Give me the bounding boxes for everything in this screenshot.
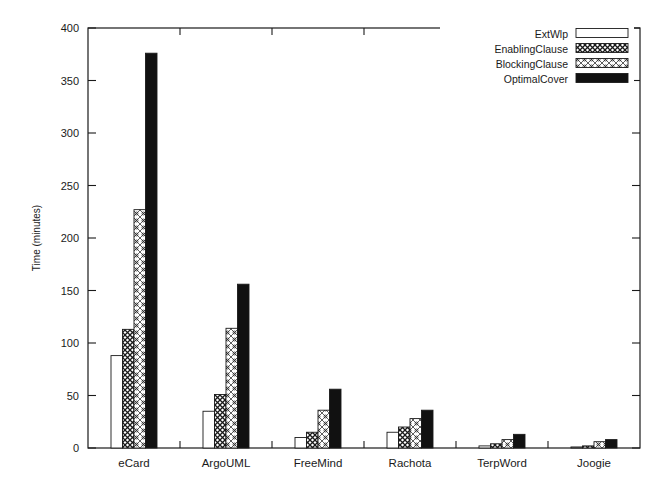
category-label: ArgoUML <box>202 457 251 469</box>
y-tick-label: 50 <box>67 390 79 402</box>
bar-joogie-blockingclause <box>594 442 606 448</box>
legend-label-enablingclause: EnablingClause <box>494 43 568 55</box>
chart-canvas: 050100150200250300350400 eCardArgoUMLFre… <box>0 0 670 485</box>
y-tick-label: 400 <box>61 22 79 34</box>
bar-joogie-extwlp <box>571 447 583 448</box>
chart-legend: ExtWlpEnablingClauseBlockingClauseOptima… <box>440 22 634 94</box>
legend-label-blockingclause: BlockingClause <box>496 58 569 70</box>
legend-label-optimalcover: OptimalCover <box>504 73 569 85</box>
y-tick-label: 100 <box>61 337 79 349</box>
bar-terpword-optimalcover <box>514 434 526 448</box>
bar-rachota-enablingclause <box>399 427 411 448</box>
bar-ecard-enablingclause <box>123 329 135 448</box>
y-tick-label: 0 <box>73 442 79 454</box>
bar-rachota-optimalcover <box>422 410 434 448</box>
category-label: Rachota <box>389 457 432 469</box>
bar-freemind-optimalcover <box>330 389 342 448</box>
bar-rachota-extwlp <box>387 432 399 448</box>
y-axis-label: Time (minutes) <box>31 205 42 271</box>
y-tick-label: 300 <box>61 127 79 139</box>
legend-swatch-optimalcover <box>576 74 628 83</box>
y-tick-label: 150 <box>61 285 79 297</box>
bar-terpword-enablingclause <box>491 444 503 448</box>
bar-ecard-optimalcover <box>146 53 158 448</box>
category-label: eCard <box>118 457 149 469</box>
y-axis-title: Time (minutes) <box>31 205 42 271</box>
bar-ecard-blockingclause <box>134 210 146 448</box>
bar-argouml-blockingclause <box>226 328 238 448</box>
bar-joogie-enablingclause <box>583 446 595 448</box>
legend-swatch-extwlp <box>576 29 628 38</box>
category-label: Joogie <box>577 457 611 469</box>
y-tick-label: 350 <box>61 75 79 87</box>
y-tick-label: 250 <box>61 180 79 192</box>
legend-label-extwlp: ExtWlp <box>535 28 568 40</box>
legend-swatch-blockingclause <box>576 59 628 68</box>
bar-chart: 050100150200250300350400 eCardArgoUMLFre… <box>0 0 670 485</box>
bar-terpword-blockingclause <box>502 440 514 448</box>
bar-ecard-extwlp <box>111 356 123 448</box>
bar-freemind-extwlp <box>295 438 307 449</box>
bar-freemind-enablingclause <box>307 432 319 448</box>
legend-swatch-enablingclause <box>576 44 628 53</box>
bar-joogie-optimalcover <box>606 440 618 448</box>
bar-terpword-extwlp <box>479 446 491 448</box>
category-label: FreeMind <box>294 457 343 469</box>
bar-argouml-enablingclause <box>215 394 227 448</box>
y-tick-label: 200 <box>61 232 79 244</box>
category-label: TerpWord <box>477 457 527 469</box>
bar-argouml-optimalcover <box>238 284 250 448</box>
bar-rachota-blockingclause <box>410 419 422 448</box>
bar-argouml-extwlp <box>203 411 215 448</box>
bar-freemind-blockingclause <box>318 410 330 448</box>
